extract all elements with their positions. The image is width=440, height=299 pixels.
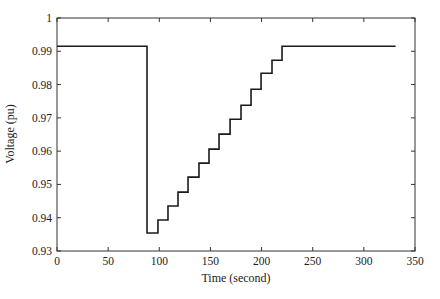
voltage-chart: 050100150200250300350 0.930.940.950.960.… <box>0 0 440 299</box>
y-axis-label: Voltage (pu) <box>3 104 17 163</box>
y-tick-label: 1 <box>46 12 52 24</box>
x-axis-label: Time (second) <box>201 271 270 285</box>
series-line-voltage <box>57 46 396 233</box>
x-tick-label: 350 <box>406 255 424 267</box>
series-layer <box>57 46 396 233</box>
y-tick-label: 0.93 <box>32 245 52 257</box>
x-tick-label: 300 <box>355 255 373 267</box>
y-tick-label: 0.97 <box>32 112 52 124</box>
x-axis-ticks: 050100150200250300350 <box>54 18 424 267</box>
x-tick-label: 250 <box>304 255 322 267</box>
y-tick-label: 0.99 <box>32 45 52 57</box>
y-tick-label: 0.96 <box>32 145 52 157</box>
y-tick-label: 0.95 <box>32 178 52 190</box>
x-tick-label: 150 <box>202 255 220 267</box>
y-tick-label: 0.94 <box>32 212 52 224</box>
x-tick-label: 0 <box>54 255 60 267</box>
plot-area-border <box>57 18 415 251</box>
x-tick-label: 50 <box>102 255 114 267</box>
x-tick-label: 100 <box>151 255 169 267</box>
y-tick-label: 0.98 <box>32 79 52 91</box>
x-tick-label: 200 <box>253 255 271 267</box>
axes-frame <box>57 18 415 251</box>
